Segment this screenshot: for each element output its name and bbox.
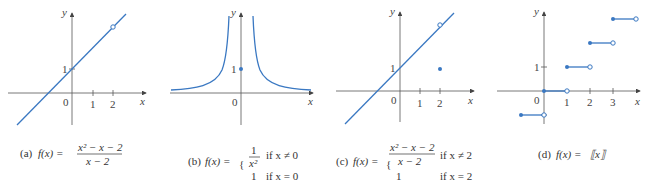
caption-expr: ⟦x⟧ [590, 148, 607, 160]
case1-numerator: 1 [251, 144, 257, 156]
x-tick-label-3: 3 [610, 96, 616, 108]
caption-b: (b) f(x) = { 1 x² if x ≠ 0 1 if x = 0 [188, 144, 299, 182]
case2-value: 1 [251, 170, 257, 182]
x-tick-label-1: 1 [564, 96, 570, 108]
origin-label: 0 [391, 94, 397, 106]
caption-fx: f(x) = [38, 147, 63, 160]
y-axis-label: y [533, 5, 539, 17]
graph-c: y x 0 1 2 1 (c) f(x) = { x² − x − 2 x − … [336, 5, 474, 182]
open-circle-hole [438, 23, 442, 27]
graph-d: y x 0 1 2 3 1 (d) f(x) = ⟦x⟧ [497, 5, 640, 161]
y-axis-label: y [389, 5, 395, 17]
case2-condition: if x = 0 [266, 170, 299, 182]
case1-condition: if x ≠ 2 [440, 149, 472, 161]
x-tick-label-2: 2 [437, 97, 443, 109]
open-circle-hole [111, 25, 115, 29]
caption-a: (a) f(x) = x² − x − 2 x − 2 [20, 141, 123, 167]
case1-denominator: x − 2 [397, 155, 422, 167]
brace: { [386, 158, 391, 170]
origin-label: 0 [534, 94, 540, 106]
case1-numerator: x² − x − 2 [389, 141, 435, 153]
step-3 [611, 17, 638, 21]
caption-denominator: x − 2 [85, 155, 110, 167]
caption-d: (d) f(x) = ⟦x⟧ [538, 148, 607, 161]
curve-left-branch [171, 16, 229, 90]
step-2 [588, 41, 615, 45]
y-tick-label-1: 1 [534, 61, 540, 73]
case2-value: 1 [396, 170, 402, 182]
caption-numerator: x² − x − 2 [77, 141, 123, 153]
x-axis-label: x [307, 95, 313, 107]
caption-c: (c) f(x) = { x² − x − 2 x − 2 if x ≠ 2 1… [336, 141, 472, 182]
curve-right-branch [253, 16, 311, 90]
filled-point [438, 67, 442, 71]
y-tick-label-1: 1 [231, 63, 237, 75]
case1-denominator: x² [248, 157, 258, 169]
y-tick-label-1: 1 [390, 62, 396, 74]
caption-fx: f(x) = [353, 155, 378, 168]
brace: { [239, 158, 244, 170]
y-tick-label-1: 1 [62, 63, 68, 75]
figure-canvas: y x 0 1 2 1 (a) f(x) = x² − x − 2 x − 2 … [0, 0, 647, 183]
caption-prefix: (b) [188, 155, 201, 168]
x-tick-label-2: 2 [110, 98, 116, 110]
y-axis-label: y [61, 6, 67, 18]
step-neg1 [519, 113, 546, 117]
x-axis-label: x [634, 95, 640, 107]
graph-a: y x 0 1 2 1 (a) f(x) = x² − x − 2 x − 2 [8, 6, 146, 167]
x-axis-label: x [139, 95, 145, 107]
origin-label: 0 [63, 96, 69, 108]
caption-fx: f(x) = [556, 148, 581, 161]
y-axis-label: y [230, 6, 236, 18]
caption-prefix: (c) [336, 155, 349, 168]
graph-b: y x 0 1 (b) f(x) = { 1 x² if x ≠ 0 1 if … [170, 6, 313, 182]
caption-fx: f(x) = [205, 155, 230, 168]
step-1 [565, 65, 592, 69]
x-tick-label-1: 1 [417, 97, 423, 109]
caption-prefix: (d) [538, 148, 551, 161]
case2-condition: if x = 2 [440, 170, 472, 182]
x-tick-label-1: 1 [90, 98, 96, 110]
filled-point [239, 67, 243, 71]
x-axis-label: x [467, 94, 473, 106]
caption-prefix: (a) [20, 147, 33, 160]
origin-label: 0 [232, 96, 238, 108]
x-tick-label-2: 2 [587, 96, 593, 108]
case1-condition: if x ≠ 0 [266, 149, 299, 161]
step-0 [542, 89, 569, 93]
